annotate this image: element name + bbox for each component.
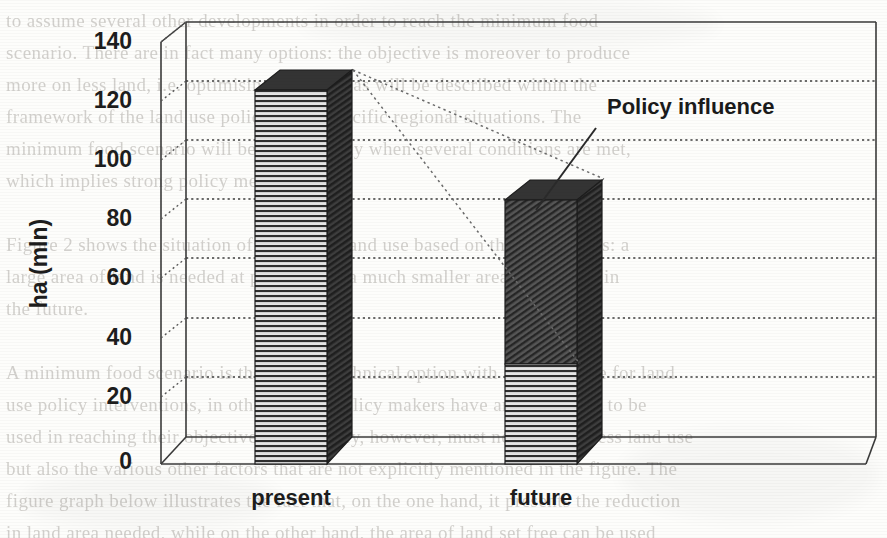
y-tick-label-100: 100 (60, 148, 132, 171)
y-tick-label-140: 140 (60, 30, 132, 53)
y-tick-label-80: 80 (60, 207, 132, 230)
y-tick-label-120: 120 (60, 89, 132, 112)
y-tick-label-40: 40 (60, 326, 132, 349)
y-tick-label-60: 60 (60, 266, 132, 289)
y-tick-label-20: 20 (60, 385, 132, 408)
policy-influence-annotation: Policy influence (607, 96, 775, 118)
category-label-present: present (221, 487, 361, 509)
category-label-future: future (471, 487, 611, 509)
y-axis-title: ha (mln) (28, 194, 51, 334)
y-tick-label-0: 0 (60, 450, 132, 473)
figure-page: to assume several other developments in … (0, 0, 887, 538)
